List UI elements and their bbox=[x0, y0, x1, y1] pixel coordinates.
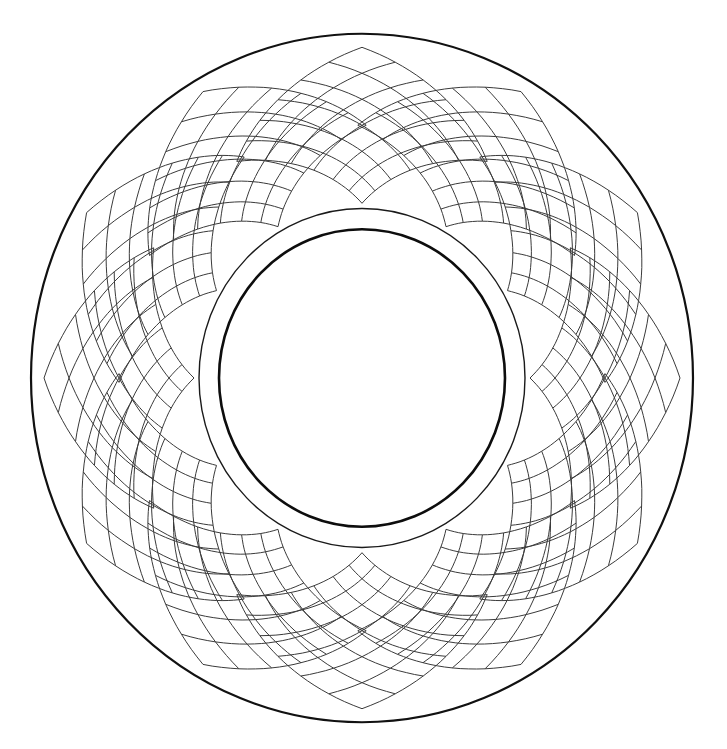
lattice-petal bbox=[480, 374, 642, 601]
lattice-petal bbox=[148, 501, 366, 670]
outer-ring bbox=[31, 34, 693, 722]
lattice-petal bbox=[480, 155, 642, 382]
lattice-petal bbox=[44, 248, 194, 508]
lattice-petal bbox=[237, 553, 487, 709]
lattice-petal bbox=[82, 155, 244, 382]
middle-ring bbox=[199, 208, 525, 547]
lattice-petal bbox=[148, 87, 366, 256]
lattice-petal bbox=[237, 47, 487, 203]
lattice-petal bbox=[358, 501, 576, 670]
mandala-figure bbox=[0, 0, 727, 749]
inner-ring bbox=[219, 229, 505, 526]
lattice-petal bbox=[82, 374, 244, 601]
lattice-petal bbox=[358, 87, 576, 256]
lattice-petal bbox=[530, 248, 680, 508]
curved-lattice-pattern bbox=[44, 47, 680, 708]
